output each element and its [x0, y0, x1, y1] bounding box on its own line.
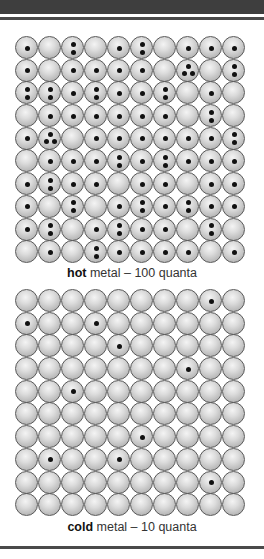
quantum-dot-icon: [140, 208, 145, 213]
atom: [107, 471, 130, 494]
quantum-dot-icon: [25, 46, 30, 51]
atom: [15, 195, 38, 218]
atom: [222, 357, 245, 380]
quantum-dot-icon: [71, 208, 76, 213]
quantum-dot-icon: [209, 118, 214, 123]
quantum-dot-icon: [140, 159, 145, 164]
atom: [222, 59, 245, 82]
quantum-dot-icon: [117, 91, 122, 96]
atom: [84, 81, 107, 104]
atom: [107, 493, 130, 516]
quantum-dot-icon: [117, 114, 122, 119]
atom: [15, 149, 38, 172]
atom: [61, 195, 84, 218]
atom: [130, 81, 153, 104]
quantum-dot-icon: [209, 46, 214, 51]
atom: [222, 448, 245, 471]
atom: [38, 127, 61, 150]
atom: [153, 127, 176, 150]
atom: [107, 312, 130, 335]
atom: [176, 240, 199, 263]
atom: [176, 425, 199, 448]
atom: [38, 81, 61, 104]
hot-metal-lattice: [15, 36, 245, 263]
atom: [38, 334, 61, 357]
atom: [153, 334, 176, 357]
atom: [199, 172, 222, 195]
atom: [130, 149, 153, 172]
quantum-dot-icon: [163, 250, 168, 255]
atom: [15, 36, 38, 59]
atom: [153, 425, 176, 448]
quantum-dot-icon: [94, 159, 99, 164]
atom: [153, 402, 176, 425]
atom: [107, 59, 130, 82]
atom: [176, 380, 199, 403]
atom: [222, 36, 245, 59]
atom: [61, 81, 84, 104]
atom: [176, 104, 199, 127]
atom: [84, 218, 107, 241]
atom: [107, 425, 130, 448]
atom: [38, 149, 61, 172]
atom: [84, 493, 107, 516]
atom: [61, 357, 84, 380]
quantum-dot-icon: [25, 95, 30, 100]
quantum-dot-icon: [190, 71, 195, 76]
atom: [15, 104, 38, 127]
atom: [153, 493, 176, 516]
atom: [222, 471, 245, 494]
atom: [222, 289, 245, 312]
quantum-dot-icon: [232, 64, 237, 69]
quantum-dot-icon: [140, 182, 145, 187]
atom: [15, 334, 38, 357]
atom: [38, 289, 61, 312]
atom: [199, 81, 222, 104]
atom: [15, 493, 38, 516]
quantum-dot-icon: [163, 163, 168, 168]
atom: [15, 380, 38, 403]
quantum-dot-icon: [209, 204, 214, 209]
quantum-dot-icon: [209, 299, 214, 304]
atom: [107, 36, 130, 59]
atom: [15, 471, 38, 494]
atom: [153, 471, 176, 494]
atom: [176, 59, 199, 82]
atom: [15, 448, 38, 471]
quantum-dot-icon: [71, 68, 76, 73]
quantum-dot-icon: [140, 227, 145, 232]
atom: [84, 240, 107, 263]
atom: [107, 240, 130, 263]
quantum-dot-icon: [48, 159, 53, 164]
atom: [61, 149, 84, 172]
atom: [61, 380, 84, 403]
atom: [84, 172, 107, 195]
atom: [15, 218, 38, 241]
cold-label-bold: cold: [67, 520, 93, 534]
atom: [130, 104, 153, 127]
quantum-dot-icon: [117, 163, 122, 168]
atom: [176, 357, 199, 380]
quantum-dot-icon: [48, 223, 53, 228]
atom: [199, 312, 222, 335]
atom: [61, 493, 84, 516]
atom: [222, 380, 245, 403]
atom: [15, 425, 38, 448]
atom: [222, 312, 245, 335]
atom: [130, 59, 153, 82]
quantum-dot-icon: [52, 139, 57, 144]
atom: [38, 218, 61, 241]
atom: [130, 357, 153, 380]
footer-rule: [0, 546, 264, 549]
atom: [222, 149, 245, 172]
atom: [84, 448, 107, 471]
atom: [153, 172, 176, 195]
quantum-dot-icon: [186, 46, 191, 51]
quantum-dot-icon: [186, 136, 191, 141]
atom: [130, 334, 153, 357]
atom: [38, 240, 61, 263]
atom: [153, 195, 176, 218]
atom: [130, 36, 153, 59]
cold-label-rest: metal – 10 quanta: [93, 520, 197, 534]
atom: [130, 402, 153, 425]
